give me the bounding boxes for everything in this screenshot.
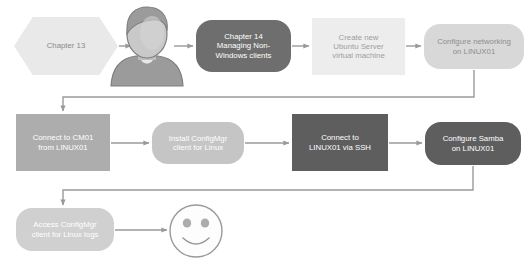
figure-layer bbox=[0, 0, 530, 267]
smiley-right-eye bbox=[201, 218, 209, 227]
flowchart-canvas: Chapter 13 Chapter 14 Managing Non- Wind… bbox=[0, 0, 530, 267]
person-icon bbox=[111, 7, 183, 86]
smiley-left-eye bbox=[183, 218, 191, 227]
smiley-face-icon bbox=[170, 205, 222, 257]
